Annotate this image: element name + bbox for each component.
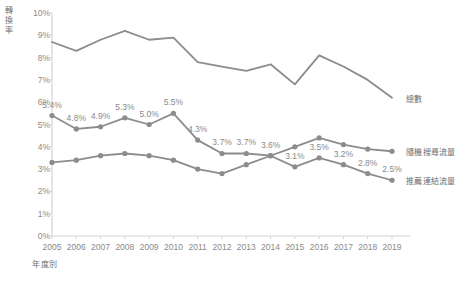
- legend-label-2: 推薦連結流量: [406, 175, 456, 186]
- chart-legend: 總數隨機搜尋流量推薦連結流量: [0, 0, 474, 283]
- legend-label-1: 隨機搜尋流量: [406, 146, 456, 157]
- conversion-rate-line-chart: 轉換率 年度別 0%1%2%3%4%5%6%7%8%9%10% 20052006…: [0, 0, 474, 283]
- legend-label-0: 總數: [406, 92, 423, 103]
